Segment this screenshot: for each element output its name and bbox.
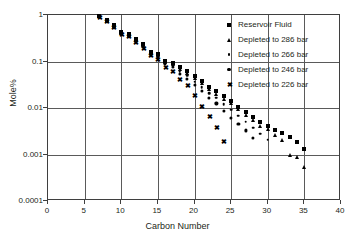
data-point (259, 132, 262, 135)
legend-item-2[interactable]: Depleted to 266 bar (224, 47, 308, 62)
data-point (148, 53, 153, 58)
data-point (222, 97, 226, 101)
x-tick-mark (340, 200, 341, 204)
data-point (177, 76, 182, 81)
data-point (222, 109, 225, 112)
legend-marker-icon (224, 80, 234, 90)
data-point (273, 128, 277, 132)
data-point (215, 102, 218, 105)
x-tick-label: 35 (299, 206, 308, 215)
x-tick-label: 25 (226, 206, 235, 215)
legend-marker-icon (224, 50, 234, 60)
data-point (288, 135, 292, 139)
data-point (273, 133, 277, 137)
data-point (288, 153, 292, 157)
y-tick-mark (43, 14, 47, 15)
data-point (214, 125, 219, 130)
data-point (280, 131, 284, 135)
y-tick-mark (43, 61, 47, 62)
y-tick-label: 0.01 (10, 103, 43, 112)
x-tick-mark (194, 200, 195, 204)
data-point (201, 86, 204, 89)
x-tick-mark (84, 200, 85, 204)
y-tick-label: 0.1 (10, 56, 43, 65)
data-point (280, 138, 284, 142)
data-point (295, 155, 299, 159)
x-tick-mark (47, 200, 48, 204)
data-point (266, 138, 269, 141)
x-tick-label: 20 (189, 206, 198, 215)
legend-item-1[interactable]: Depleted to 286 bar (224, 32, 308, 47)
legend-item-3[interactable]: Depleted to 246 bar (224, 62, 308, 77)
legend-item-label: Depleted to 286 bar (238, 35, 308, 44)
legend-item-label: Reservoir Fluid (238, 20, 292, 29)
data-point (141, 45, 146, 50)
legend-item-label: Depleted to 246 bar (238, 65, 308, 74)
x-tick-label: 30 (262, 206, 271, 215)
data-point (207, 113, 212, 118)
legend-marker-icon (224, 20, 234, 30)
data-point (252, 136, 255, 139)
data-point (193, 84, 196, 87)
legend-marker-icon (224, 35, 234, 45)
data-point (208, 92, 211, 95)
x-gridline (195, 15, 196, 199)
y-tick-label: 1 (10, 10, 43, 19)
data-point (193, 80, 196, 83)
x-gridline (158, 15, 159, 199)
data-point (229, 101, 233, 105)
data-point (111, 25, 116, 30)
data-point (236, 107, 240, 111)
data-point (230, 116, 233, 119)
data-point (192, 93, 197, 98)
x-axis-title: Carbon Number (0, 221, 355, 231)
x-tick-mark (267, 200, 268, 204)
data-point (155, 56, 160, 61)
data-point (208, 96, 211, 99)
y-tick-mark (43, 154, 47, 155)
data-point (244, 129, 247, 132)
y-tick-label: 0.001 (10, 149, 43, 158)
data-point (223, 103, 226, 106)
data-point (244, 113, 248, 117)
legend-item-label: Depleted to 226 bar (238, 80, 308, 89)
data-point (163, 64, 168, 69)
x-gridline (85, 15, 86, 199)
legend-item-4[interactable]: Depleted to 226 bar (224, 77, 308, 92)
y-tick-mark (43, 200, 47, 201)
data-point (215, 97, 218, 100)
chart-legend: Reservoir FluidDepleted to 286 barDeplet… (222, 15, 310, 94)
y-tick-label: 0.0001 (10, 196, 43, 205)
data-point (104, 19, 109, 24)
data-point (302, 165, 306, 169)
x-tick-label: 0 (45, 206, 49, 215)
x-tick-label: 15 (152, 206, 161, 215)
data-point (251, 118, 255, 122)
x-tick-mark (157, 200, 158, 204)
legend-marker-icon (224, 65, 234, 75)
data-point (119, 32, 124, 37)
x-tick-mark (230, 200, 231, 204)
chart-figure: Mole% Carbon Number Reservoir FluidDeple… (0, 0, 355, 241)
data-point (214, 92, 218, 96)
data-point (244, 120, 247, 123)
data-point (237, 123, 240, 126)
data-point (230, 108, 233, 111)
data-point (185, 83, 190, 88)
x-tick-mark (303, 200, 304, 204)
legend-item-0[interactable]: Reservoir Fluid (224, 17, 308, 32)
y-gridline (48, 108, 339, 109)
data-point (258, 124, 262, 128)
data-point (133, 40, 138, 45)
data-point (295, 140, 299, 144)
x-gridline (121, 15, 122, 199)
data-point (237, 114, 240, 117)
data-point (266, 127, 270, 131)
legend-item-label: Depleted to 266 bar (238, 50, 308, 59)
data-point (170, 68, 175, 73)
data-point (221, 138, 226, 143)
data-point (97, 14, 102, 19)
x-tick-mark (120, 200, 121, 204)
x-tick-label: 5 (81, 206, 85, 215)
data-point (126, 34, 131, 39)
